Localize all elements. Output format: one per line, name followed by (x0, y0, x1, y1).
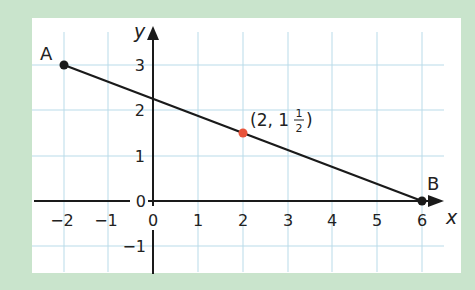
x-tick: 4 (327, 211, 337, 230)
x-tick: 3 (283, 211, 293, 230)
y-tick: 1 (135, 147, 145, 166)
svg-text:1: 1 (296, 107, 303, 120)
x-tick: 6 (417, 211, 427, 230)
svg-text:): ) (306, 110, 313, 130)
point-a-label: A (40, 43, 53, 64)
y-tick: 3 (135, 56, 145, 75)
x-tick: −2 (50, 211, 74, 230)
point-a (60, 61, 69, 70)
coordinate-graph: y x −2 −1 0 1 2 3 4 5 6 −1 0 1 2 3 A B (… (0, 0, 475, 290)
y-axis-label: y (133, 20, 146, 42)
y-tick: 0 (136, 192, 146, 211)
x-tick: 1 (193, 211, 203, 230)
y-axis (147, 26, 159, 274)
y-tick: 2 (135, 101, 145, 120)
point-b (418, 197, 427, 206)
x-tick: 0 (148, 211, 158, 230)
x-axis-label: x (445, 206, 458, 228)
y-tick: −1 (122, 237, 146, 256)
x-axis (34, 195, 444, 207)
midpoint (239, 129, 248, 138)
x-axis-arrow-icon (428, 195, 444, 207)
x-tick: −1 (94, 211, 118, 230)
svg-text:(2, 1: (2, 1 (250, 110, 289, 130)
grid-lines (32, 32, 444, 272)
svg-text:2: 2 (296, 122, 303, 135)
x-tick: 2 (238, 211, 248, 230)
y-axis-arrow-icon (147, 26, 159, 40)
x-tick: 5 (372, 211, 382, 230)
point-b-label: B (427, 173, 439, 194)
midpoint-label: (2, 1 1 2 ) (250, 107, 313, 135)
